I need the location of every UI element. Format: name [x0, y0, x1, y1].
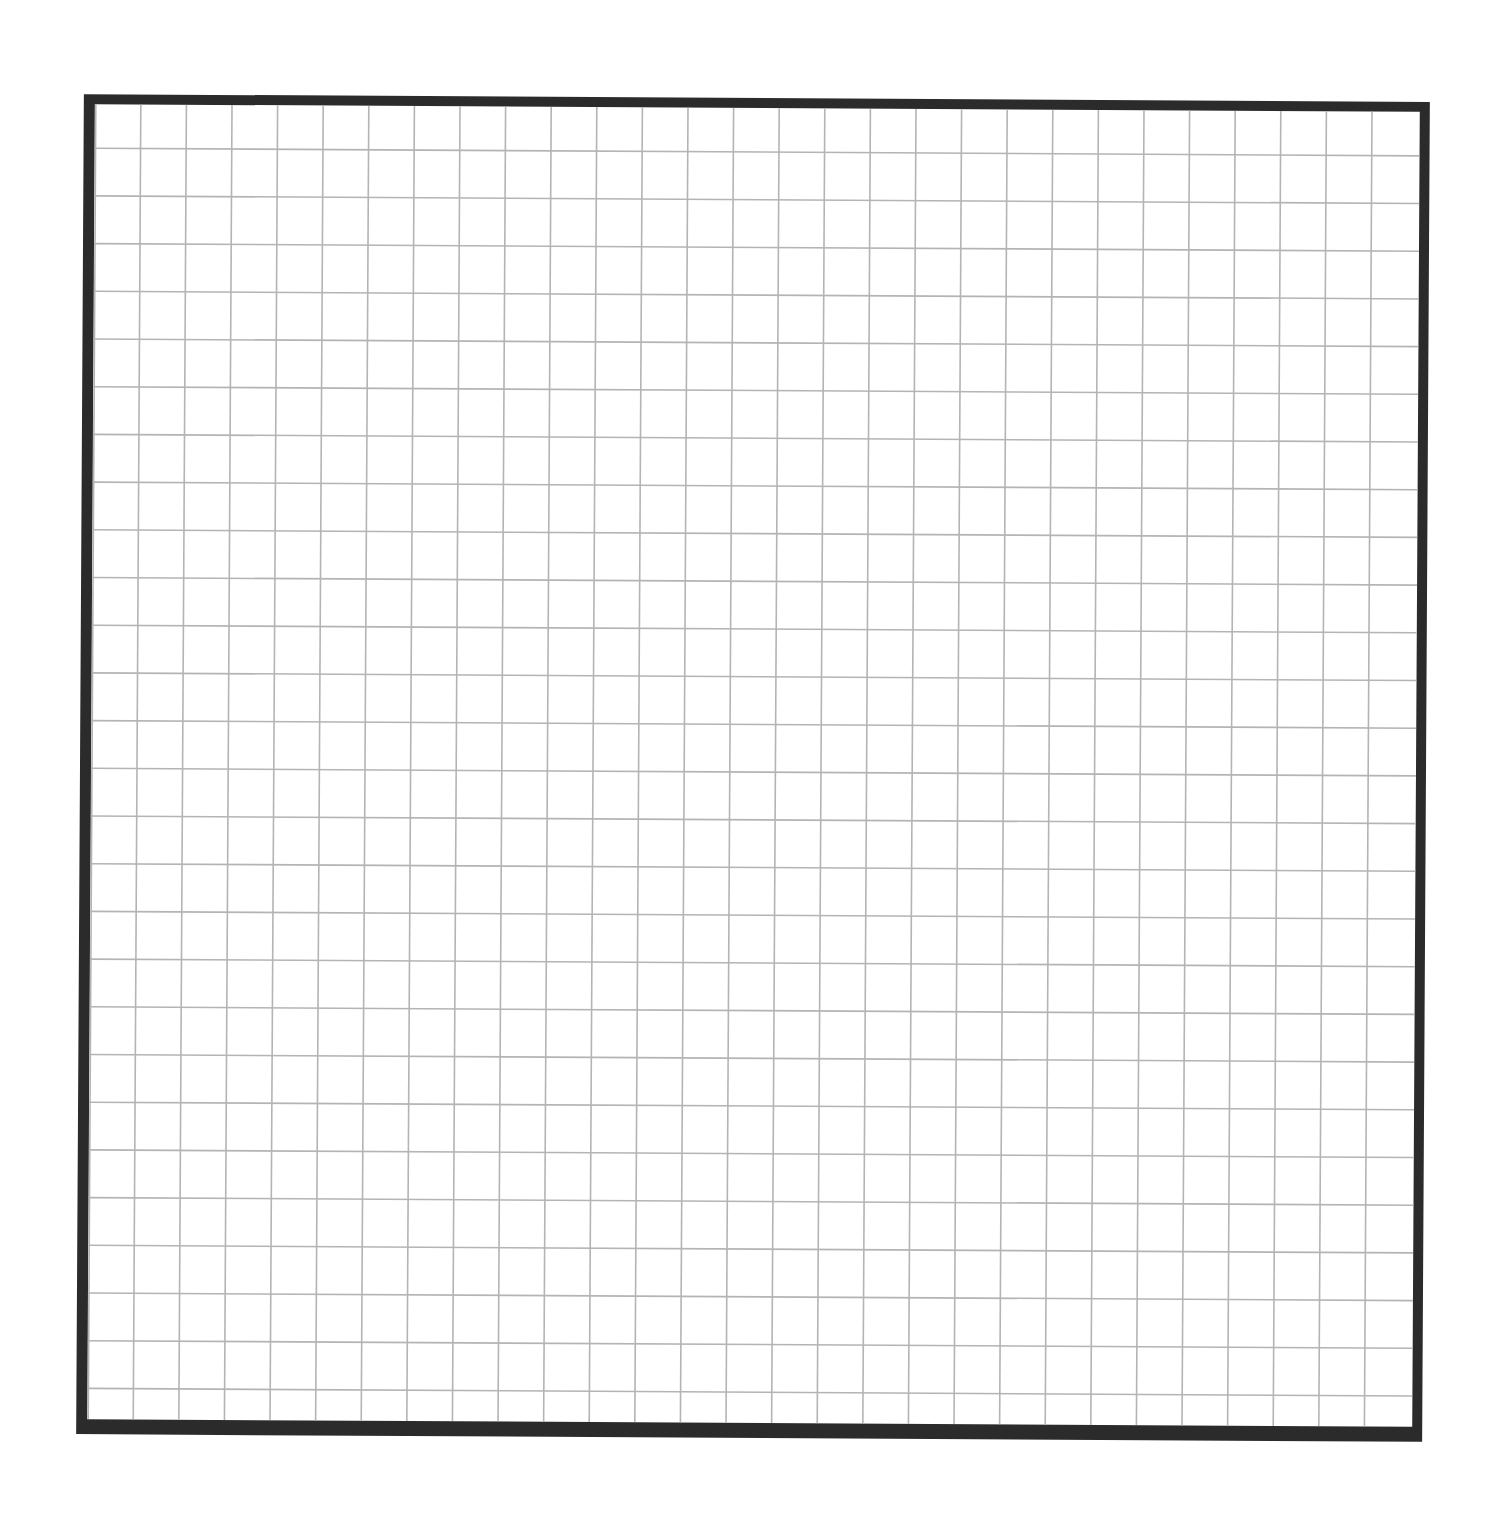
- grid-horizontal-line: [88, 1245, 1413, 1253]
- grid-vertical-line: [589, 107, 597, 1422]
- grid-horizontal-line: [89, 1102, 1414, 1110]
- grid-horizontal-line: [93, 339, 1418, 347]
- grid-horizontal-line: [93, 387, 1418, 395]
- graph-paper-sheet: [76, 94, 1430, 1442]
- grid-vertical-line: [772, 108, 780, 1423]
- grid-lines: [87, 104, 1420, 1427]
- grid-horizontal-line: [94, 196, 1419, 204]
- grid-vertical-line: [1045, 110, 1053, 1425]
- grid-horizontal-line: [87, 1388, 1412, 1396]
- grid-horizontal-line: [94, 291, 1419, 299]
- grid-vertical-line: [133, 104, 141, 1419]
- grid-vertical-line: [270, 105, 278, 1420]
- grid-vertical-line: [179, 105, 187, 1420]
- grid-vertical-line: [1000, 109, 1008, 1424]
- grid-horizontal-line: [91, 721, 1416, 729]
- grid-vertical-line: [407, 106, 415, 1421]
- grid-vertical-line: [680, 108, 688, 1423]
- grid-horizontal-line: [89, 1198, 1414, 1206]
- grid-horizontal-line: [91, 816, 1416, 824]
- grid-vertical-line: [726, 108, 734, 1423]
- grid-vertical-line: [1273, 111, 1281, 1426]
- grid-vertical-line: [452, 106, 460, 1421]
- grid-horizontal-line: [94, 244, 1419, 252]
- inner-left-rule: [88, 104, 96, 1419]
- grid-vertical-line: [1228, 111, 1236, 1426]
- grid-horizontal-line: [88, 1293, 1413, 1301]
- grid-horizontal-line: [92, 673, 1417, 681]
- grid-vertical-line: [635, 107, 643, 1422]
- grid-vertical-line: [863, 109, 871, 1424]
- grid-horizontal-line: [88, 1341, 1413, 1349]
- grid-horizontal-line: [90, 911, 1415, 919]
- grid-horizontal-line: [90, 959, 1415, 967]
- grid-vertical-line: [817, 108, 825, 1423]
- grid-horizontal-line: [92, 625, 1417, 633]
- grid-vertical-line: [361, 106, 369, 1421]
- grid-horizontal-line: [89, 1150, 1414, 1158]
- grid-horizontal-line: [90, 864, 1415, 872]
- grid-vertical-line: [1091, 110, 1099, 1425]
- grid-horizontal-line: [92, 577, 1417, 585]
- grid-horizontal-line: [90, 1007, 1415, 1015]
- grid-horizontal-line: [93, 482, 1418, 490]
- grid-horizontal-line: [95, 148, 1420, 156]
- grid-vertical-line: [908, 109, 916, 1424]
- grid-horizontal-line: [92, 530, 1417, 538]
- grid-vertical-line: [1319, 111, 1327, 1426]
- grid-vertical-line: [1364, 112, 1372, 1427]
- grid-vertical-line: [224, 105, 232, 1420]
- grid-horizontal-line: [89, 1054, 1414, 1062]
- grid-vertical-line: [498, 107, 506, 1422]
- grid-vertical-line: [316, 106, 324, 1421]
- grid-vertical-line: [954, 109, 962, 1424]
- grid-vertical-line: [1182, 111, 1190, 1426]
- grid-vertical-line: [1136, 110, 1144, 1425]
- grid-vertical-line: [544, 107, 552, 1422]
- grid-horizontal-line: [93, 434, 1418, 442]
- grid-horizontal-line: [91, 768, 1416, 776]
- grid-svg: [87, 104, 1420, 1427]
